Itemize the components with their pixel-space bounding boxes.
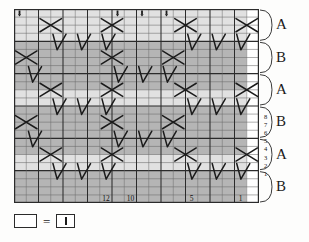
bracket-label-a-2: A — [276, 82, 287, 97]
chart-grid-svg — [14, 9, 259, 203]
column-number-12: 12 — [99, 194, 113, 203]
legend-knit-stitch-box — [56, 214, 75, 228]
chart-page: 121051 87654321 ABABAB = — [0, 0, 309, 242]
bracket-label-a-0: A — [276, 17, 287, 32]
section-bracket-column: ABABAB — [259, 9, 309, 205]
knit-stitch-bar-icon — [65, 217, 67, 225]
column-number-10: 10 — [123, 194, 137, 203]
bracket-label-a-4: A — [276, 147, 287, 162]
bracket-label-b-3: B — [276, 114, 286, 129]
legend-empty-box — [14, 214, 37, 228]
stitch-chart-grid: 121051 — [14, 9, 259, 203]
chart-legend: = — [14, 214, 75, 228]
bracket-label-b-5: B — [276, 179, 286, 194]
bracket-label-b-1: B — [276, 50, 286, 65]
column-number-5: 5 — [185, 194, 199, 203]
bracket-svg — [259, 9, 309, 205]
legend-equals-sign: = — [43, 215, 50, 228]
column-number-1: 1 — [234, 194, 248, 203]
